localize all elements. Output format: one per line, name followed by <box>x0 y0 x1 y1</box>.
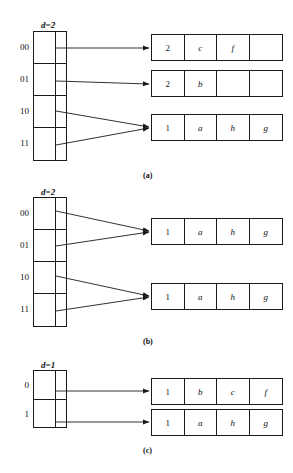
bucket-key: f <box>250 379 282 404</box>
bucket-key: h <box>217 410 250 435</box>
panel-a-bucket-1: 2 b <box>151 70 283 97</box>
panel-b-dir-index-00: 00 <box>8 208 29 218</box>
bucket-key: a <box>185 219 218 244</box>
panel-a-pointer-01 <box>56 81 149 84</box>
dir-cell[interactable] <box>34 64 66 96</box>
dir-cell[interactable] <box>34 128 66 160</box>
bucket-key: c <box>185 35 218 60</box>
dir-cell[interactable] <box>34 400 66 429</box>
dir-cell[interactable] <box>34 294 66 326</box>
bucket-key: g <box>250 115 282 140</box>
panel-a-pointer-11 <box>56 128 149 145</box>
bucket-key <box>217 71 250 96</box>
bucket-local-depth: 1 <box>152 219 185 244</box>
bucket-local-depth: 2 <box>152 71 185 96</box>
panel-b-dir-index-01: 01 <box>8 240 29 250</box>
panel-b-global-depth-label: d=2 <box>41 187 55 197</box>
bucket-key <box>250 35 282 60</box>
bucket-key: g <box>250 284 282 309</box>
bucket-key: a <box>185 284 218 309</box>
panel-a-dir-index-01: 01 <box>8 74 29 84</box>
bucket-key: g <box>250 219 282 244</box>
panel-c-directory <box>33 370 67 428</box>
panel-a-dir-index-10: 10 <box>8 106 29 116</box>
panel-a-global-depth-label: d=2 <box>41 20 55 30</box>
panel-b-pointer-01 <box>56 232 149 246</box>
panel-b-dir-index-11: 11 <box>8 304 29 314</box>
panel-b-bucket-1: 1 a h g <box>151 283 283 310</box>
panel-c-directory-divider <box>55 370 56 428</box>
panel-c-caption: (c) <box>143 446 152 455</box>
panel-c-dir-index-0: 0 <box>8 380 29 390</box>
panel-b-caption: (b) <box>143 337 153 346</box>
panel-c-dir-index-1: 1 <box>8 409 29 419</box>
bucket-local-depth: 1 <box>152 410 185 435</box>
panel-a-directory <box>33 31 67 161</box>
dir-cell[interactable] <box>34 371 66 400</box>
dir-cell[interactable] <box>34 262 66 294</box>
bucket-local-depth: 1 <box>152 379 185 404</box>
dir-cell[interactable] <box>34 230 66 262</box>
bucket-local-depth: 2 <box>152 35 185 60</box>
dir-cell[interactable] <box>34 32 66 64</box>
panel-b-bucket-0: 1 a h g <box>151 218 283 245</box>
panel-b-directory <box>33 197 67 327</box>
extendible-hashing-figure: d=2 00 01 10 11 2 c f 2 b 1 a h <box>0 0 293 473</box>
panel-a-bucket-2: 1 a h g <box>151 114 283 141</box>
dir-cell[interactable] <box>34 198 66 230</box>
bucket-key: h <box>217 284 250 309</box>
panel-a-bucket-0: 2 c f <box>151 34 283 61</box>
panel-b-pointer-00 <box>56 211 149 231</box>
bucket-key: c <box>217 379 250 404</box>
panel-c-global-depth-label: d=1 <box>41 360 55 370</box>
bucket-key: b <box>185 379 218 404</box>
panel-a-dir-index-00: 00 <box>8 42 29 52</box>
panel-a-directory-divider <box>55 31 56 161</box>
bucket-key: f <box>217 35 250 60</box>
bucket-local-depth: 1 <box>152 115 185 140</box>
bucket-key: g <box>250 410 282 435</box>
bucket-local-depth: 1 <box>152 284 185 309</box>
panel-b-dir-index-10: 10 <box>8 272 29 282</box>
panel-c-bucket-0: 1 b c f <box>151 378 283 405</box>
panel-a-dir-index-11: 11 <box>8 138 29 148</box>
panel-a-caption: (a) <box>143 171 152 180</box>
dir-cell[interactable] <box>34 96 66 128</box>
bucket-key <box>250 71 282 96</box>
bucket-key: a <box>185 410 218 435</box>
panel-b-directory-divider <box>55 197 56 327</box>
panel-c-bucket-1: 1 a h g <box>151 409 283 436</box>
panel-b-pointer-11 <box>56 297 149 311</box>
panel-b-pointer-10 <box>56 276 149 296</box>
bucket-key: a <box>185 115 218 140</box>
bucket-key: h <box>217 219 250 244</box>
bucket-key: b <box>185 71 218 96</box>
panel-a-pointer-10 <box>56 111 149 127</box>
bucket-key: h <box>217 115 250 140</box>
